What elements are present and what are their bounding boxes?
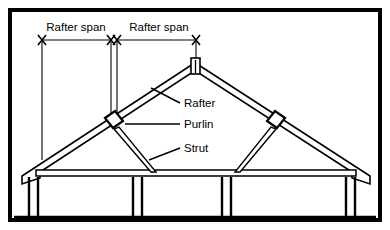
dimension-label-left-rafter-span: Rafter span: [46, 21, 105, 33]
callout-label-rafter: Rafter: [184, 97, 215, 109]
callout-label-purlin: Purlin: [184, 118, 213, 130]
dimension-label-right-rafter-span: Rafter span: [129, 21, 188, 33]
callout-label-strut: Strut: [184, 142, 209, 154]
figure-background: [0, 0, 390, 230]
roof-truss-diagram: Rafter span Rafter span Rafter Purlin St…: [0, 0, 390, 230]
tie-beam: [36, 170, 356, 176]
truss-drawing-canvas: Rafter span Rafter span Rafter Purlin St…: [0, 0, 390, 230]
